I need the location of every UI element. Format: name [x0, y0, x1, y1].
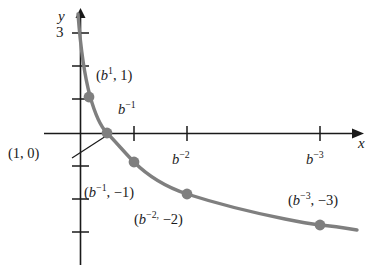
point-label-b-neg2: (b−2, −2)	[134, 210, 183, 226]
plot-canvas	[0, 0, 379, 273]
exponent: −2	[146, 209, 156, 220]
exponent: −1	[125, 99, 135, 110]
exponent: −1	[96, 182, 106, 193]
x-tick-label-b-neg3: b−3	[306, 150, 324, 166]
y-tick-label-3: 3	[56, 25, 64, 40]
data-point-bm3	[315, 220, 326, 231]
point-label-b1: (b1, 1)	[96, 66, 132, 82]
origin-leader-line	[72, 136, 106, 158]
data-point-b1	[84, 92, 95, 103]
base-b: b	[293, 192, 300, 208]
log-graph-figure: y x 3 (b1, 1) b−1 (1, 0) (b−1, −1) b−2 (…	[0, 0, 379, 273]
data-point-1-0	[102, 128, 113, 139]
label-rest: −2)	[159, 211, 183, 227]
base-b: b	[101, 67, 108, 83]
exponent: −2	[179, 149, 189, 160]
x-axis	[44, 129, 364, 139]
data-point-bm2	[182, 189, 193, 200]
exponent: −3	[313, 149, 323, 160]
base-b: b	[139, 211, 146, 227]
x-tick-label-b-neg2: b−2	[172, 150, 190, 166]
label-rest: , −3)	[311, 192, 339, 208]
y-axis-label: y	[58, 9, 65, 24]
x-tick-label-b-neg1: b−1	[118, 100, 136, 116]
exponent: −3	[300, 190, 310, 201]
label-rest: , −1)	[107, 184, 135, 200]
label-rest: , 1)	[113, 67, 132, 83]
point-label-b-neg1: (b−1, −1)	[84, 183, 134, 199]
point-label-1-0: (1, 0)	[8, 146, 39, 161]
base-b: b	[89, 184, 96, 200]
point-label-b-neg3: (b−3, −3)	[288, 191, 338, 207]
data-point-bm1	[129, 157, 140, 168]
x-axis-label: x	[358, 136, 365, 151]
